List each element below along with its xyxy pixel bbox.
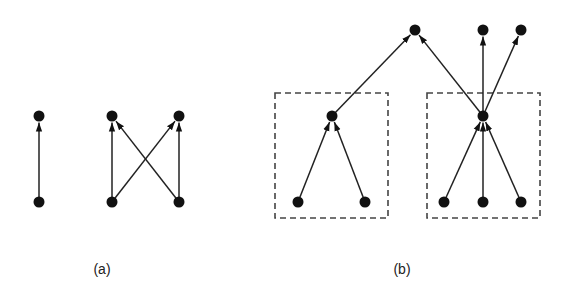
caption-a: (a) (93, 261, 110, 277)
node-a3 (107, 111, 118, 122)
node-t1 (410, 25, 421, 36)
diagram-canvas: (a) (b) (0, 0, 569, 303)
edge-m2-t1 (419, 35, 483, 116)
edge-b1-m1 (298, 122, 330, 202)
node-a2 (34, 197, 45, 208)
node-a5 (107, 197, 118, 208)
edge-b2-m1 (334, 122, 365, 202)
node-b1 (293, 197, 304, 208)
edge-m2-t3 (483, 36, 518, 116)
panel-a (34, 111, 185, 208)
edge-a6-a3 (116, 121, 179, 202)
caption-b: (b) (393, 261, 410, 277)
node-b5 (516, 197, 527, 208)
edge-b5-m2 (486, 122, 521, 202)
edge-a5-a4 (112, 121, 175, 202)
node-a4 (174, 111, 185, 122)
edge-m1-t1 (332, 35, 410, 116)
node-t3 (516, 25, 527, 36)
node-m1 (327, 111, 338, 122)
panel-b (275, 25, 540, 219)
node-a1 (34, 111, 45, 122)
node-b2 (360, 197, 371, 208)
node-b3 (439, 197, 450, 208)
edge-b3-m2 (444, 122, 480, 202)
node-b4 (478, 197, 489, 208)
node-m2 (478, 111, 489, 122)
node-t2 (478, 25, 489, 36)
node-a6 (174, 197, 185, 208)
